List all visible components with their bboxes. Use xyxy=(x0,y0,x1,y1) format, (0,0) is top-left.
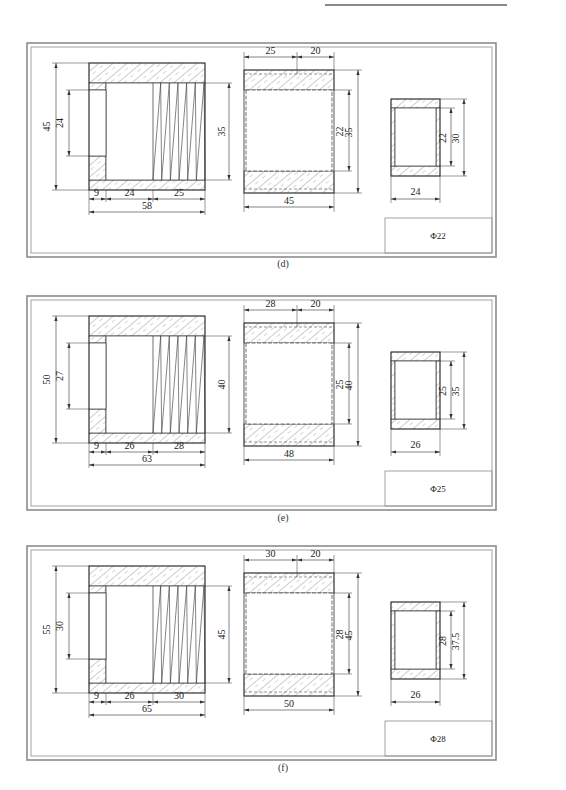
hatched-section xyxy=(244,424,334,446)
dim-length-c: 25 xyxy=(174,187,184,198)
title-block-label: Φ28 xyxy=(430,734,446,744)
hatched-section xyxy=(89,586,106,593)
arrowhead-icon xyxy=(227,678,230,683)
arrowhead-icon xyxy=(67,90,70,95)
arrowhead-icon xyxy=(391,197,396,200)
arrowhead-icon xyxy=(227,586,230,591)
hatched-section xyxy=(391,669,440,679)
tube-part: 2820254048 xyxy=(244,298,362,465)
drawing-svg: Φ2245243592425582520223545223024 xyxy=(0,40,566,275)
small-bore xyxy=(89,90,106,156)
arrowhead-icon xyxy=(297,558,302,561)
arrowhead-icon xyxy=(67,151,70,156)
hatched-section xyxy=(244,323,334,343)
arrowhead-icon xyxy=(329,205,334,208)
hatched-section xyxy=(244,573,334,593)
arrowhead-icon xyxy=(244,55,249,58)
dim-length-b: 26 xyxy=(125,690,135,701)
dim-small-tube-outer-diameter: 37.5 xyxy=(450,633,461,651)
dim-small-tube-length: 26 xyxy=(411,439,421,450)
arrowhead-icon xyxy=(449,664,452,669)
arrowhead-icon xyxy=(462,674,465,679)
hatched-section xyxy=(89,433,205,443)
arrowhead-icon xyxy=(462,424,465,429)
dim-tube-outer-diameter: 40 xyxy=(343,381,354,391)
hatched-section xyxy=(244,674,334,696)
caption-d: (d) xyxy=(0,258,566,269)
arrowhead-icon xyxy=(391,700,396,703)
arrowhead-icon xyxy=(449,161,452,166)
hatched-section xyxy=(391,166,440,176)
arrowhead-icon xyxy=(244,308,249,311)
arrowhead-icon xyxy=(106,197,111,200)
dim-small-tube-inner-diameter: 22 xyxy=(437,133,448,143)
dim-tube-left-length: 25 xyxy=(266,45,276,56)
hatched-section xyxy=(89,83,106,90)
dim-total-length: 65 xyxy=(142,703,152,714)
dim-length-a: 9 xyxy=(94,440,99,451)
arrowhead-icon xyxy=(329,708,334,711)
threaded-sleeve-part: 4524359242558 xyxy=(41,63,232,215)
dim-small-tube-length: 24 xyxy=(411,186,421,197)
arrowhead-icon xyxy=(200,210,205,213)
arrowhead-icon xyxy=(329,308,334,311)
hatched-section xyxy=(89,316,205,336)
bore xyxy=(106,336,205,433)
dim-length-c: 28 xyxy=(174,440,184,451)
arrowhead-icon xyxy=(462,171,465,176)
arrowhead-icon xyxy=(67,343,70,348)
arrowhead-icon xyxy=(54,566,57,571)
hatched-section xyxy=(391,611,395,669)
tube-bore xyxy=(246,593,332,674)
arrowhead-icon xyxy=(106,450,111,453)
hatched-section xyxy=(89,156,106,180)
arrowhead-icon xyxy=(106,700,111,703)
dim-tube-outer-diameter: 35 xyxy=(343,128,354,138)
arrowhead-icon xyxy=(462,602,465,607)
arrowhead-icon xyxy=(153,197,158,200)
arrowhead-icon xyxy=(244,558,249,561)
bore xyxy=(106,586,205,683)
dim-thread-diameter: 40 xyxy=(216,380,227,390)
dim-length-c: 30 xyxy=(174,690,184,701)
bore xyxy=(106,83,205,180)
arrowhead-icon xyxy=(329,558,334,561)
caption-e: (e) xyxy=(0,512,566,523)
arrowhead-icon xyxy=(153,450,158,453)
dim-total-length: 58 xyxy=(142,200,152,211)
arrowhead-icon xyxy=(89,713,94,716)
dim-small-tube-inner-diameter: 25 xyxy=(437,386,448,396)
hatched-section xyxy=(244,70,334,90)
arrowhead-icon xyxy=(101,450,106,453)
tube-bore xyxy=(246,90,332,171)
small-tube-part: 2837.526 xyxy=(391,602,467,706)
hatched-section xyxy=(89,409,106,433)
dim-length-b: 24 xyxy=(125,187,135,198)
dim-tube-right-length: 20 xyxy=(311,548,321,559)
dim-tube-left-length: 30 xyxy=(266,548,276,559)
dim-tube-right-length: 20 xyxy=(311,45,321,56)
arrowhead-icon xyxy=(54,185,57,190)
arrowhead-icon xyxy=(200,463,205,466)
arrowhead-icon xyxy=(329,55,334,58)
hatched-section xyxy=(391,419,440,429)
arrowhead-icon xyxy=(200,197,205,200)
dim-tube-total-length: 48 xyxy=(284,448,294,459)
arrowhead-icon xyxy=(297,308,302,311)
arrowhead-icon xyxy=(435,450,440,453)
dim-bore-diameter: 24 xyxy=(54,118,65,128)
arrowhead-icon xyxy=(449,361,452,366)
arrowhead-icon xyxy=(200,700,205,703)
drawing-panel-f: Φ28553045926306530202845502837.526 xyxy=(0,543,566,778)
dim-small-tube-outer-diameter: 35 xyxy=(450,387,461,397)
arrowhead-icon xyxy=(67,593,70,598)
dim-length-a: 9 xyxy=(94,187,99,198)
dim-tube-outer-diameter: 45 xyxy=(343,631,354,641)
drawing-panel-e: Φ2550274092628632820254048253526 xyxy=(0,293,566,528)
small-bore xyxy=(89,343,106,409)
arrowhead-icon xyxy=(347,419,350,424)
arrowhead-icon xyxy=(89,463,94,466)
arrowhead-icon xyxy=(347,166,350,171)
threaded-sleeve-part: 5530459263065 xyxy=(41,566,232,718)
hatched-section xyxy=(391,108,395,166)
